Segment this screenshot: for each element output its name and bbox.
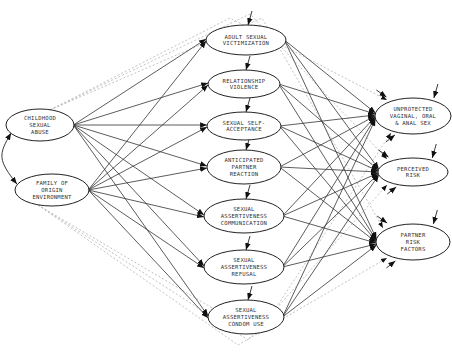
variable-nodes: CHILDHOODSEXUALABUSEFAMILY OFORIGINENVIR… — [6, 25, 451, 334]
node-label: SEXUAL SELF- — [223, 120, 266, 126]
node-foe: FAMILY OFORIGINENVIRONMENT — [15, 174, 89, 206]
node-label: REACTION — [230, 171, 259, 177]
node-csa: CHILDHOODSEXUALABUSE — [6, 109, 74, 141]
node-rv: RELATIONSHIPVIOLENCE — [208, 70, 280, 98]
path-arrow-foe-to-ssa — [88, 127, 207, 190]
disturbance-arrow-prf — [433, 210, 437, 224]
node-uvoa: UNPROTECTEDVAGINAL, ORAL& ANAL SEX — [375, 98, 451, 134]
node-label: SEXUAL — [233, 206, 255, 212]
node-label: ASSERTIVENESS — [223, 314, 269, 320]
path-arrow-apr-to-pr — [280, 167, 378, 172]
disturbance-arrow-uvoa — [434, 84, 438, 98]
node-label: COMMUNICATION — [221, 220, 267, 226]
node-label: PARTNER — [401, 232, 426, 238]
node-label: ACCEPTANCE — [226, 126, 262, 132]
covariance-arrow — [2, 133, 17, 184]
node-label: ASSERTIVENESS — [221, 264, 267, 270]
node-label: ADULT SEXUAL — [225, 34, 268, 40]
node-label: ANTICIPATED — [224, 157, 264, 163]
path-arrow-sac-to-prf — [282, 216, 376, 243]
disturbance-arrow-pr — [432, 144, 436, 158]
node-ssa: SEXUAL SELF-ACCEPTANCE — [207, 112, 281, 140]
residual-arrow-top-uvoa — [376, 90, 386, 97]
node-label: PARTNER — [232, 164, 257, 170]
path-arrow-scu-to-pr — [282, 175, 378, 317]
node-label: ENVIRONMENT — [32, 194, 72, 200]
path-arrow-foe-to-scu — [88, 190, 208, 318]
node-label: RISK — [406, 172, 421, 178]
node-label: PERCEIVED — [397, 166, 430, 172]
node-label: ASSERTIVENESS — [221, 213, 267, 219]
node-asv: ADULT SEXUALVICTIMIZATION — [206, 25, 286, 55]
node-label: SEXUAL — [233, 257, 255, 263]
node-label: CHILDHOOD — [24, 115, 57, 121]
path-arrow-ssa-to-uvoa — [280, 115, 376, 126]
node-sac: SEXUALASSERTIVENESSCOMMUNICATION — [204, 199, 284, 233]
node-sar: SEXUALASSERTIVENESSREFUSAL — [204, 250, 284, 284]
path-arrow-csa-to-asv — [73, 39, 206, 125]
node-label: FAMILY OF — [36, 180, 69, 186]
node-label: RELATIONSHIP — [223, 78, 266, 84]
node-label: SEXUAL — [235, 307, 257, 313]
node-label: SEXUAL — [29, 122, 51, 128]
node-scu: SEXUALASSERTIVENESSCONDOM USE — [208, 300, 284, 334]
node-label: ORIGIN — [41, 187, 62, 193]
node-prf: PARTNERRISKFACTORS — [376, 224, 450, 260]
node-label: & ANAL SEX — [395, 120, 431, 126]
path-arrow-apr-to-prf — [280, 167, 376, 242]
path-arrow-sac-to-pr — [282, 173, 378, 216]
disturbance-arrow-sac — [246, 185, 250, 199]
node-label: REFUSAL — [232, 271, 257, 277]
path-arrow-foe-to-asv — [88, 41, 206, 190]
path-arrow-foe-to-sar — [88, 190, 204, 268]
residual-arrow-pr — [387, 187, 396, 194]
disturbance-arrow-asv — [248, 11, 252, 25]
path-arrow-ssa-to-prf — [280, 126, 377, 241]
residual-arrow-uvoa — [386, 135, 395, 142]
disturbance-arrow-scu — [248, 286, 252, 300]
path-arrow-foe-to-rv — [88, 85, 208, 190]
node-apr: ANTICIPATEDPARTNERREACTION — [207, 150, 281, 184]
path-arrow-rv-to-prf — [279, 84, 377, 240]
disturbance-arrow-ssa — [246, 98, 250, 112]
path-arrow-rv-to-pr — [279, 84, 379, 170]
node-label: ABUSE — [31, 129, 49, 135]
residual-arrow-top-prf — [377, 216, 387, 223]
path-arrow-csa-to-scu — [73, 125, 208, 316]
node-label: VAGINAL, ORAL — [390, 113, 437, 119]
node-label: VICTIMIZATION — [223, 40, 269, 46]
disturbance-arrow-rv — [246, 56, 250, 70]
path-arrow-csa-to-apr — [73, 125, 207, 166]
node-label: RISK — [406, 239, 421, 245]
node-pr: PERCEIVEDRISK — [378, 158, 448, 186]
node-label: UNPROTECTED — [393, 106, 433, 112]
node-label: FACTORS — [401, 246, 426, 252]
residual-arrow-prf — [386, 261, 395, 268]
path-diagram-canvas: CHILDHOODSEXUALABUSEFAMILY OFORIGINENVIR… — [0, 0, 452, 357]
node-label: CONDOM USE — [228, 321, 264, 327]
path-diagram: CHILDHOODSEXUALABUSEFAMILY OFORIGINENVIR… — [0, 0, 452, 357]
path-arrow-rv-to-uvoa — [279, 84, 376, 114]
node-label: VIOLENCE — [230, 84, 259, 90]
disturbance-arrow-sar — [246, 236, 250, 250]
